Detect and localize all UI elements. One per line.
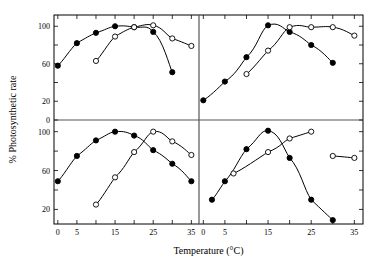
y-tick-label: 100 [38,128,50,137]
data-point-open [189,43,194,48]
data-point-open [151,23,156,28]
data-point-open [93,58,98,63]
x-tick-label: 35 [350,228,358,237]
panel-bottom-right [209,128,357,223]
data-point-open [244,71,249,76]
data-point-filled [74,153,79,158]
x-tick-label: 35 [187,228,195,237]
data-point-filled [189,179,194,184]
x-tick-label: 5 [75,228,79,237]
data-point-filled [330,60,335,65]
panel-top-left [55,23,194,75]
data-point-open [330,153,335,158]
data-point-open [287,136,292,141]
x-tick-label: 0 [201,228,205,237]
y-tick-label: 20 [42,205,50,214]
x-tick-label: 5 [223,228,227,237]
data-point-filled [265,128,270,133]
data-point-filled [201,98,206,103]
data-point-open [352,155,357,160]
data-point-filled [265,23,270,28]
data-point-filled [93,138,98,143]
data-point-filled [309,42,314,47]
data-point-filled [209,197,214,202]
data-point-open [231,171,236,176]
y-tick-label: 20 [42,97,50,106]
y-axis-title: % Photosynthetic rate [7,75,18,163]
photosynthesis-temperature-figure: 0515253505152535020601002060100Temperatu… [0,0,381,273]
curve-open-circles [333,156,355,158]
data-point-open [352,33,357,38]
data-point-open [287,25,292,30]
data-point-open [170,139,175,144]
data-point-open [309,129,314,134]
data-point-filled [222,179,227,184]
data-point-open [93,202,98,207]
panel-top-right [201,23,357,103]
data-point-open [189,152,194,157]
curve-open-circles [96,25,191,61]
data-point-open [151,129,156,134]
data-point-open [265,149,270,154]
data-point-filled [309,197,314,202]
curve-filled-circles [212,131,333,221]
y-tick-label: 0 [46,116,50,125]
panel-bottom-left [55,129,194,207]
data-point-filled [74,41,79,46]
data-point-open [132,25,137,30]
data-point-filled [170,161,175,166]
data-point-open [112,34,117,39]
y-tick-label: 60 [42,60,50,69]
data-point-filled [330,218,335,223]
curve-open-circles [234,132,312,174]
data-point-filled [55,179,60,184]
y-tick-label: 100 [38,22,50,31]
data-point-filled [244,147,249,152]
data-point-open [309,25,314,30]
data-point-open [112,175,117,180]
figure-canvas: 0515253505152535020601002060100Temperatu… [0,0,381,273]
data-point-filled [151,29,156,34]
data-point-filled [112,24,117,29]
data-point-filled [132,133,137,138]
data-point-open [170,36,175,41]
data-point-filled [55,63,60,68]
x-tick-label: 0 [56,228,60,237]
x-axis-title: Temperature (°C) [173,245,243,257]
x-tick-label: 25 [149,228,157,237]
y-tick-label: 60 [42,167,50,176]
data-point-filled [93,30,98,35]
data-point-filled [151,148,156,153]
data-point-filled [244,55,249,60]
curve-filled-circles [203,24,332,100]
data-point-filled [112,129,117,134]
x-tick-label: 15 [264,228,272,237]
data-point-filled [222,79,227,84]
data-point-open [265,48,270,53]
x-tick-label: 15 [111,228,119,237]
x-tick-label: 25 [307,228,315,237]
data-point-filled [287,155,292,160]
curve-open-circles [96,131,191,204]
data-point-open [132,149,137,154]
data-point-open [330,25,335,30]
data-point-filled [170,70,175,75]
